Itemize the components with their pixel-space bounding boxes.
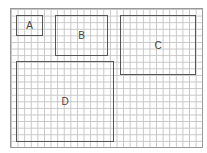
rectangle-d-label: D: [61, 96, 68, 107]
rectangle-b-label: B: [78, 30, 85, 41]
rectangle-d: D: [16, 61, 114, 142]
rectangle-c: C: [120, 15, 196, 75]
rectangle-a-label: A: [26, 20, 33, 31]
rectangle-c-label: C: [154, 40, 161, 51]
rectangle-b: B: [55, 15, 108, 56]
rectangle-a: A: [16, 15, 43, 36]
